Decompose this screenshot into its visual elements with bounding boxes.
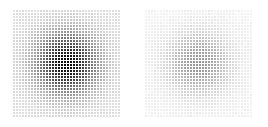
figure-root <box>0 0 268 127</box>
left-heatmap-canvas <box>13 10 121 118</box>
right-heatmap-canvas <box>145 10 253 118</box>
left-heatmap-panel <box>13 10 122 118</box>
right-heatmap-panel <box>145 10 254 118</box>
